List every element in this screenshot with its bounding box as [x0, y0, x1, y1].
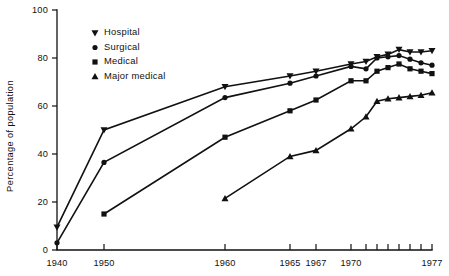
series-surgical	[54, 53, 434, 245]
data-point	[374, 69, 379, 74]
data-point	[313, 73, 318, 78]
data-point	[313, 97, 318, 102]
circle-icon	[92, 45, 97, 50]
data-point	[101, 211, 106, 216]
data-point	[312, 147, 319, 153]
data-point	[348, 78, 353, 83]
data-point	[363, 78, 368, 83]
series-line	[104, 64, 432, 214]
series-line	[225, 93, 432, 199]
y-tick-label: 20	[37, 197, 48, 207]
legend-label: Major medical	[104, 70, 166, 81]
data-point	[429, 71, 434, 76]
data-point	[363, 66, 368, 71]
data-point	[385, 65, 390, 70]
data-point	[222, 95, 227, 100]
chart-container: 020406080100 194019501960196519671970197…	[0, 0, 449, 276]
legend-item-major-medical[interactable]: Major medical	[91, 70, 165, 81]
y-tick-label: 80	[37, 53, 48, 63]
data-point	[221, 195, 228, 201]
data-point	[101, 160, 106, 165]
chart-legend: HospitalSurgicalMedicalMajor medical	[91, 26, 165, 81]
y-axis-ticks: 020406080100	[32, 5, 57, 255]
data-point	[54, 240, 59, 245]
data-point	[287, 108, 292, 113]
data-point	[428, 89, 435, 95]
triangle-up-icon	[91, 73, 98, 79]
data-point	[407, 66, 412, 71]
x-tick-label: 1967	[305, 258, 326, 268]
data-point	[418, 69, 423, 74]
legend-label: Hospital	[104, 26, 140, 37]
data-point	[53, 224, 60, 230]
x-tick-label: 1965	[279, 258, 300, 268]
data-point	[374, 55, 379, 60]
y-tick-label: 60	[37, 101, 48, 111]
data-point	[287, 81, 292, 86]
x-axis-ticks: 1940195019601965196719701977	[46, 244, 442, 268]
data-point	[222, 135, 227, 140]
line-chart: 020406080100 194019501960196519671970197…	[0, 0, 449, 276]
y-tick-label: 100	[32, 5, 48, 15]
triangle-down-icon	[91, 30, 98, 36]
legend-item-medical[interactable]: Medical	[92, 55, 138, 66]
legend-label: Medical	[104, 55, 138, 66]
legend-item-hospital[interactable]: Hospital	[91, 26, 139, 37]
data-point	[100, 127, 107, 133]
x-tick-label: 1977	[421, 258, 442, 268]
legend-item-surgical[interactable]: Surgical	[92, 41, 139, 52]
data-point	[429, 63, 434, 68]
y-tick-label: 40	[37, 149, 48, 159]
data-point	[385, 54, 390, 59]
x-tick-label: 1960	[214, 258, 235, 268]
y-tick-label: 0	[43, 245, 48, 255]
data-point	[407, 57, 412, 62]
y-axis-label: Percentage of population	[5, 80, 15, 192]
x-tick-label: 1940	[46, 258, 67, 268]
series-medical	[101, 61, 434, 216]
data-point	[418, 60, 423, 65]
legend-label: Surgical	[104, 41, 140, 52]
x-tick-label: 1950	[93, 258, 114, 268]
x-tick-label: 1970	[340, 258, 361, 268]
data-point	[396, 53, 401, 58]
series-major-medical	[221, 89, 435, 201]
data-point	[396, 61, 401, 66]
data-point	[348, 64, 353, 69]
square-icon	[92, 59, 97, 64]
